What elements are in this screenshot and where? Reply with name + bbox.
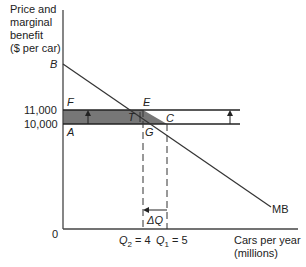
delta-q-label: ΔQ bbox=[147, 214, 163, 227]
mb-curve-label: MB bbox=[272, 203, 289, 216]
origin-label: 0 bbox=[52, 228, 58, 241]
y-axis-label-line4: ($ per car) bbox=[10, 42, 61, 55]
q1-symbol: Q bbox=[156, 234, 165, 246]
x-axis-label-line1: Cars per year bbox=[234, 234, 301, 247]
y-axis-label-line1: Price and bbox=[10, 3, 56, 16]
y-tick-10000: 10,000 bbox=[24, 118, 58, 131]
tax-t-label: T bbox=[128, 111, 135, 124]
x-axis-label-line2: (millions) bbox=[234, 247, 278, 260]
point-a-label: A bbox=[67, 126, 74, 139]
q2-tick-label: Q2 = 4 bbox=[119, 234, 151, 251]
y-axis-label-line3: benefit bbox=[10, 29, 43, 42]
y-axis-label-line2: marginal bbox=[10, 16, 52, 29]
q1-value: = 5 bbox=[169, 234, 188, 246]
point-c-label: C bbox=[166, 112, 174, 125]
q2-value: = 4 bbox=[132, 234, 151, 246]
q1-tick-label: Q1 = 5 bbox=[156, 234, 188, 251]
q2-symbol: Q bbox=[119, 234, 128, 246]
point-f-label: F bbox=[67, 96, 74, 109]
y-tick-11000: 11,000 bbox=[24, 104, 57, 117]
point-b-label: B bbox=[50, 58, 57, 71]
point-g-label: G bbox=[145, 126, 154, 139]
point-e-label: E bbox=[143, 96, 150, 109]
